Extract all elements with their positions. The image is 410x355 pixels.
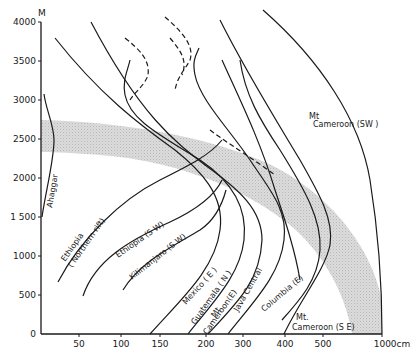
rainfall-altitude-chart: M 4000 3500 3000 2500 2000 1 500 1000 50…: [0, 0, 410, 355]
svg-text:400: 400: [276, 339, 293, 349]
svg-text:0: 0: [30, 329, 36, 339]
svg-text:3000: 3000: [13, 95, 36, 105]
svg-text:1 500: 1 500: [10, 212, 36, 222]
x-axis-labels: 50 100 150 200 300 400 500 1000cm: [73, 339, 410, 349]
curve-dashed-1: [125, 38, 148, 100]
curve-dashed-3: [170, 38, 184, 75]
svg-text:1000cm: 1000cm: [374, 339, 410, 349]
y-unit-label: M: [38, 8, 46, 18]
label-ahaggar: Ahaggar: [45, 173, 60, 209]
y-axis-labels: 4000 3500 3000 2500 2000 1 500 1000 500 …: [10, 17, 36, 339]
svg-text:2500: 2500: [13, 134, 36, 144]
svg-text:200: 200: [197, 339, 214, 349]
svg-text:150: 150: [151, 339, 168, 349]
svg-text:500: 500: [19, 290, 36, 300]
svg-text:50: 50: [73, 339, 85, 349]
svg-text:100: 100: [112, 339, 129, 349]
svg-text:500: 500: [314, 339, 331, 349]
svg-text:300: 300: [234, 339, 251, 349]
svg-text:4000: 4000: [13, 17, 36, 27]
label-cameroon-sw-2: Cameroon (SW ): [313, 120, 379, 129]
svg-text:3500: 3500: [13, 56, 36, 66]
label-cameroon-se-1: Mt.: [296, 313, 309, 322]
curve-dashed-2: [165, 17, 191, 90]
svg-text:1000: 1000: [13, 251, 36, 261]
curve-guatemala: [124, 60, 244, 334]
svg-text:2000: 2000: [13, 173, 36, 183]
label-cameroon-se-2: Cameroon (S E): [292, 323, 355, 332]
